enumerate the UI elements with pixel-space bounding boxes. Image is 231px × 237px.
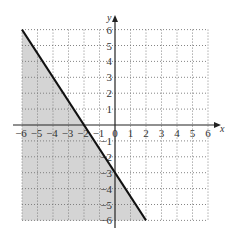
x-tick-label: 2: [143, 127, 149, 139]
y-axis-label: y: [106, 12, 112, 23]
x-tick-label: 5: [190, 127, 196, 139]
y-tick-label: 2: [107, 87, 113, 99]
y-tick-label: 3: [107, 71, 113, 83]
y-tick-label: −4: [100, 183, 112, 195]
x-tick-label: −5: [31, 127, 43, 139]
y-tick-label: −6: [100, 214, 112, 226]
y-tick-label: 5: [107, 40, 113, 52]
y-tick-label: −3: [100, 167, 112, 179]
y-tick-label: 4: [107, 55, 113, 67]
x-tick-label: 0: [112, 127, 118, 139]
x-tick-label: −6: [15, 127, 27, 139]
y-axis-arrow-icon: [112, 15, 118, 22]
x-tick-label: −4: [46, 127, 58, 139]
x-tick-label: 3: [159, 127, 165, 139]
y-tick-label: −1: [100, 135, 112, 147]
x-tick-label: 4: [174, 127, 180, 139]
y-tick-label: −5: [100, 199, 112, 211]
coordinate-plane: −6−5−4−3−2−10123456654321−1−2−3−4−5−6 x …: [0, 0, 231, 237]
x-tick-label: 6: [205, 127, 211, 139]
x-axis-label: x: [219, 123, 225, 134]
x-tick-label: 1: [128, 127, 134, 139]
x-tick-label: −3: [62, 127, 74, 139]
y-tick-label: 6: [107, 24, 113, 36]
y-tick-label: 1: [107, 103, 113, 115]
